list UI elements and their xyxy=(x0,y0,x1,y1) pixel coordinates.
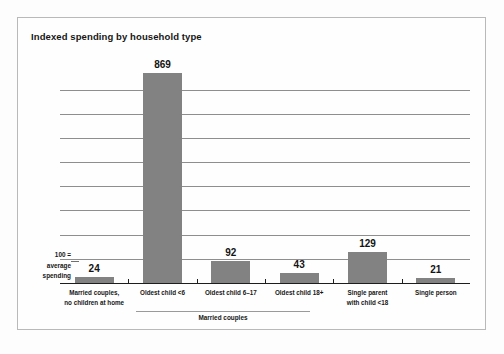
bar-value-label-2: 92 xyxy=(201,247,261,258)
category-label-2: Oldest child 6–17 xyxy=(193,288,269,298)
gridline-600 xyxy=(60,138,470,139)
bar-3 xyxy=(280,273,319,283)
category-label-0: Married couples,no children at home xyxy=(56,288,132,307)
category-label-2-line-0: Oldest child 6–17 xyxy=(193,288,269,298)
axis-baseline xyxy=(60,283,470,284)
bar-0 xyxy=(75,277,114,283)
axis-tick-4 xyxy=(333,279,334,283)
bar-4 xyxy=(348,252,387,283)
category-label-3: Oldest child 18+ xyxy=(261,288,337,298)
bar-value-label-5: 21 xyxy=(406,264,466,275)
bar-value-label-0: 24 xyxy=(64,263,124,274)
category-label-1-line-0: Oldest child <6 xyxy=(124,288,200,298)
category-label-4-line-0: Single parent xyxy=(329,288,405,298)
axis-tick-2 xyxy=(197,279,198,283)
gridline-400 xyxy=(60,186,470,187)
category-label-4-line-1: with child <18 xyxy=(329,298,405,308)
bar-2 xyxy=(211,261,250,283)
bar-1 xyxy=(143,73,182,283)
group-bracket-line xyxy=(136,311,310,312)
gridline-200 xyxy=(60,235,470,236)
category-label-1: Oldest child <6 xyxy=(124,288,200,298)
gridline-100 xyxy=(60,259,470,260)
category-label-0-line-0: Married couples, xyxy=(56,288,132,298)
gridline-700 xyxy=(60,114,470,115)
axis-tick-5 xyxy=(402,279,403,283)
axis-tick-3 xyxy=(265,279,266,283)
category-label-4: Single parentwith child <18 xyxy=(329,288,405,307)
bar-value-label-1: 869 xyxy=(133,59,193,70)
plot-area: 24Married couples,no children at home869… xyxy=(60,62,470,283)
category-label-5-line-0: Single person xyxy=(398,288,474,298)
y-axis-note-line-1: average xyxy=(25,261,71,272)
y-axis-note-line-0: 100 = xyxy=(25,250,71,261)
y-axis-tick-dash xyxy=(71,261,79,262)
bar-value-label-4: 129 xyxy=(338,238,398,249)
y-axis-note: 100 =averagespending xyxy=(25,250,71,282)
gridline-500 xyxy=(60,162,470,163)
y-axis-note-line-2: spending xyxy=(25,271,71,282)
category-label-0-line-1: no children at home xyxy=(56,298,132,308)
gridline-800 xyxy=(60,90,470,91)
page-title: Indexed spending by household type xyxy=(31,31,202,42)
category-label-3-line-0: Oldest child 18+ xyxy=(261,288,337,298)
chart-figure: Indexed spending by household type 24Mar… xyxy=(0,0,504,354)
bar-value-label-3: 43 xyxy=(269,259,329,270)
category-label-5: Single person xyxy=(398,288,474,298)
bar-5 xyxy=(416,278,455,283)
group-bracket-label: Married couples xyxy=(136,314,310,321)
axis-tick-1 xyxy=(128,279,129,283)
gridline-300 xyxy=(60,210,470,211)
